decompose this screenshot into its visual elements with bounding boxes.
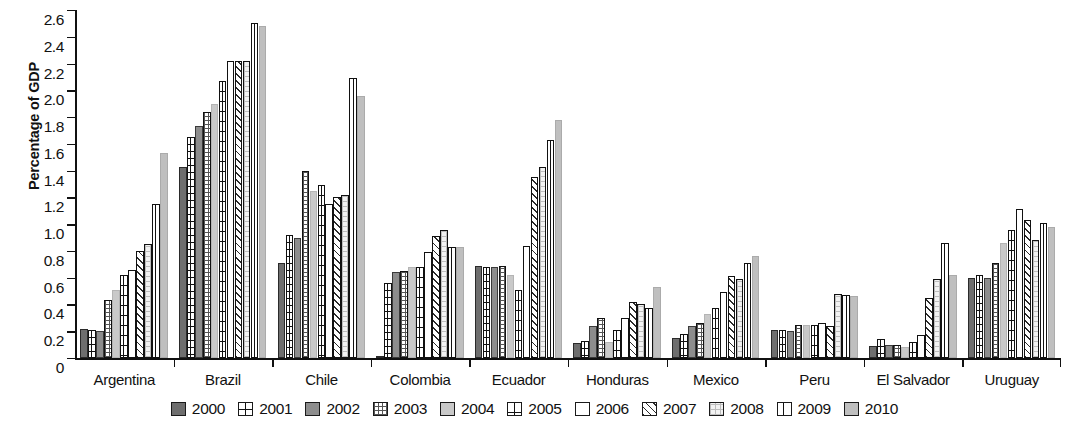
bar bbox=[310, 191, 318, 358]
legend-label: 2003 bbox=[394, 400, 427, 418]
bar bbox=[219, 81, 227, 358]
bar bbox=[736, 279, 744, 358]
bar bbox=[803, 325, 811, 358]
bar bbox=[88, 330, 96, 358]
legend-swatch-icon bbox=[709, 402, 724, 416]
legend-label: 2006 bbox=[596, 400, 629, 418]
bar bbox=[259, 26, 267, 358]
bar bbox=[251, 23, 259, 358]
bar bbox=[333, 197, 341, 358]
y-tick-mark bbox=[67, 197, 75, 198]
y-tick-mark bbox=[67, 278, 75, 279]
bar bbox=[555, 120, 563, 358]
bar bbox=[645, 308, 653, 358]
y-tick-label: 0.2 bbox=[44, 332, 64, 350]
bar bbox=[96, 331, 104, 358]
chart-root: Percentage of GDP 2.62.42.22.01.81.61.41… bbox=[0, 0, 1069, 432]
bar bbox=[949, 275, 957, 358]
bar bbox=[80, 329, 88, 358]
chart-legend: 2000200120022003200420052006200720082009… bbox=[0, 400, 1069, 418]
bar bbox=[104, 300, 112, 358]
bar bbox=[341, 195, 349, 358]
y-tick-mark bbox=[67, 10, 75, 11]
legend-label: 2008 bbox=[730, 400, 763, 418]
legend-label: 2000 bbox=[192, 400, 225, 418]
y-tick-label: 1.6 bbox=[44, 145, 64, 163]
bar bbox=[917, 335, 925, 358]
y-tick-label: 2.2 bbox=[44, 65, 64, 83]
legend-item-2000[interactable]: 2000 bbox=[171, 400, 225, 418]
legend-item-2002[interactable]: 2002 bbox=[305, 400, 359, 418]
bar bbox=[357, 96, 365, 358]
y-tick-mark bbox=[67, 304, 75, 305]
y-tick-label: 0 bbox=[56, 359, 64, 377]
legend-swatch-icon bbox=[642, 402, 657, 416]
y-tick-label: 2.6 bbox=[44, 11, 64, 29]
bar bbox=[976, 275, 984, 358]
legend-label: 2002 bbox=[326, 400, 359, 418]
x-axis-group-separator bbox=[272, 358, 273, 367]
bar bbox=[869, 346, 877, 358]
x-axis-label-brazil: Brazil bbox=[205, 371, 241, 388]
bar bbox=[294, 238, 302, 358]
bar bbox=[834, 294, 842, 358]
bar bbox=[203, 112, 211, 358]
bar bbox=[696, 323, 704, 358]
bar bbox=[968, 278, 976, 358]
bar bbox=[728, 276, 736, 358]
y-tick-label: 1.4 bbox=[44, 172, 64, 190]
x-axis-label-mexico: Mexico bbox=[693, 371, 739, 388]
legend-item-2008[interactable]: 2008 bbox=[709, 400, 763, 418]
bar bbox=[408, 267, 416, 358]
legend-swatch-icon bbox=[844, 402, 859, 416]
bar bbox=[227, 61, 235, 358]
x-axis-group-separator bbox=[667, 358, 668, 367]
bar bbox=[475, 266, 483, 358]
x-axis-label-peru: Peru bbox=[799, 371, 830, 388]
x-axis-group-separator bbox=[864, 358, 865, 367]
bar bbox=[325, 204, 333, 358]
bar bbox=[235, 61, 243, 358]
bar bbox=[621, 318, 629, 358]
bars-container bbox=[75, 10, 1061, 358]
bar bbox=[523, 246, 531, 358]
bar bbox=[581, 341, 589, 358]
x-axis-group-separator bbox=[568, 358, 569, 367]
legend-item-2006[interactable]: 2006 bbox=[575, 400, 629, 418]
y-tick-mark bbox=[67, 90, 75, 91]
bar bbox=[984, 278, 992, 358]
legend-label: 2009 bbox=[798, 400, 831, 418]
bar bbox=[128, 270, 136, 358]
legend-item-2001[interactable]: 2001 bbox=[238, 400, 292, 418]
bar bbox=[885, 345, 893, 358]
bar bbox=[1040, 223, 1048, 358]
y-tick-mark bbox=[67, 144, 75, 145]
bar bbox=[720, 292, 728, 358]
bar bbox=[424, 252, 432, 358]
legend-swatch-icon bbox=[507, 402, 522, 416]
bar bbox=[384, 283, 392, 358]
x-axis-label-argentina: Argentina bbox=[94, 371, 156, 388]
legend-item-2009[interactable]: 2009 bbox=[777, 400, 831, 418]
bar bbox=[286, 235, 294, 358]
bar bbox=[589, 326, 597, 358]
bar bbox=[120, 275, 128, 358]
bar bbox=[547, 140, 555, 358]
bar bbox=[877, 339, 885, 358]
legend-item-2004[interactable]: 2004 bbox=[440, 400, 494, 418]
legend-item-2005[interactable]: 2005 bbox=[507, 400, 561, 418]
legend-label: 2010 bbox=[865, 400, 898, 418]
x-axis-label-honduras: Honduras bbox=[586, 371, 649, 388]
legend-swatch-icon bbox=[440, 402, 455, 416]
bar bbox=[144, 244, 152, 358]
legend-label: 2001 bbox=[259, 400, 292, 418]
legend-item-2007[interactable]: 2007 bbox=[642, 400, 696, 418]
bar bbox=[1048, 227, 1056, 358]
y-tick-mark bbox=[67, 358, 75, 359]
legend-item-2010[interactable]: 2010 bbox=[844, 400, 898, 418]
bar bbox=[1016, 209, 1024, 358]
legend-item-2003[interactable]: 2003 bbox=[373, 400, 427, 418]
legend-label: 2004 bbox=[461, 400, 494, 418]
bar bbox=[992, 263, 1000, 358]
bar bbox=[909, 342, 917, 358]
